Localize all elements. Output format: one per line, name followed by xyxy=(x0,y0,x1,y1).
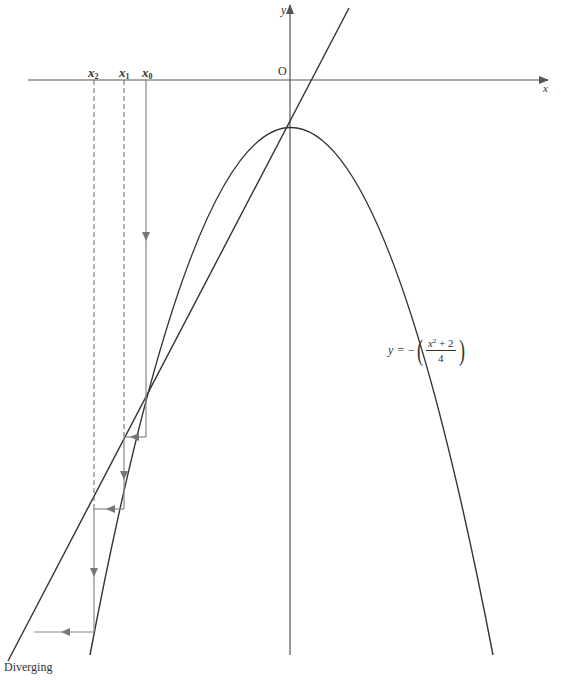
arrow-down-icon xyxy=(142,232,150,241)
eq-numerator: x2 + 2 xyxy=(426,337,456,351)
eq-open-paren: ( xyxy=(417,335,423,365)
origin-label: O xyxy=(278,65,287,77)
arrow-left-icon xyxy=(61,628,70,636)
arrow-down-icon xyxy=(90,568,98,577)
cobweb-path xyxy=(34,80,146,632)
arrow-left-icon xyxy=(106,505,115,513)
x2-label: x2 xyxy=(88,66,99,81)
eq-num-rest: + 2 xyxy=(436,337,453,349)
eq-close-paren: ) xyxy=(459,335,465,365)
diverging-caption: Diverging xyxy=(4,661,52,673)
identity-line xyxy=(8,8,349,661)
eq-denominator: 4 xyxy=(438,351,444,364)
x2-label-sub: 2 xyxy=(95,72,99,81)
arrow-left-icon xyxy=(130,433,139,441)
x1-label: x1 xyxy=(119,66,130,81)
x0-label: x0 xyxy=(142,66,153,81)
cobweb-diagram xyxy=(0,0,561,680)
eq-minus: − xyxy=(408,343,415,358)
eq-lhs: y xyxy=(388,343,393,358)
eq-equals: = xyxy=(397,343,404,358)
x-axis-label: x xyxy=(543,83,548,94)
x1-label-sub: 1 xyxy=(126,72,130,81)
parabola-equation: y = − ( x2 + 2 4 ) xyxy=(388,335,467,365)
y-axis-label: y xyxy=(281,4,286,16)
eq-fraction: x2 + 2 4 xyxy=(426,337,456,364)
x0-label-sub: 0 xyxy=(149,72,153,81)
parabola-curve xyxy=(90,128,493,656)
